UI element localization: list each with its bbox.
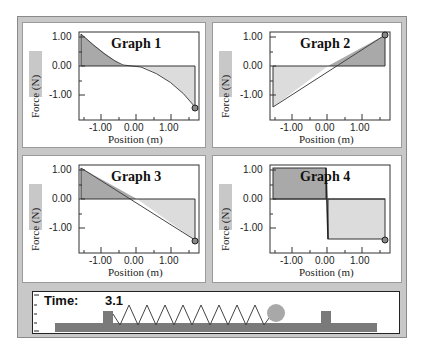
- svg-text:0.00: 0.00: [124, 255, 144, 266]
- svg-text:0.00: 0.00: [243, 193, 263, 204]
- svg-text:-1.00: -1.00: [49, 89, 72, 100]
- svg-text:1.00: 1.00: [350, 122, 370, 133]
- svg-text:1.00: 1.00: [52, 164, 72, 175]
- simulation-panel: Time: 3.1: [32, 291, 400, 334]
- svg-text:Position (m): Position (m): [299, 266, 354, 279]
- svg-text:0.00: 0.00: [124, 122, 144, 133]
- svg-text:-1.00: -1.00: [89, 122, 112, 133]
- svg-text:1.00: 1.00: [350, 255, 370, 266]
- svg-text:1.00: 1.00: [243, 164, 263, 175]
- graph-title: Graph 1: [111, 36, 161, 51]
- svg-text:-1.00: -1.00: [240, 222, 263, 233]
- svg-text:0.00: 0.00: [243, 60, 263, 71]
- svg-text:0.00: 0.00: [52, 193, 72, 204]
- graph-panel-1: Force (N) 1.00 0.00 -1.00 -1.00 0.00 1.0…: [22, 22, 206, 148]
- time-value: 3.1: [105, 293, 123, 308]
- graph-panel-2: Force (N) 1.00 0.00 -1.00 -1.00 0.00 1.0…: [212, 22, 402, 148]
- svg-text:1.00: 1.00: [159, 122, 179, 133]
- svg-text:0.00: 0.00: [52, 60, 72, 71]
- graph-3-chart: Force (N) 1.00 0.00 -1.00 -1.00 0.00 1.0…: [23, 156, 207, 284]
- spring-mass-animation: [33, 292, 399, 333]
- svg-text:Position (m): Position (m): [108, 266, 163, 279]
- svg-text:1.00: 1.00: [159, 255, 179, 266]
- svg-text:Force (N): Force (N): [219, 75, 232, 118]
- svg-text:Position (m): Position (m): [299, 133, 354, 146]
- graph-title: Graph 4: [300, 169, 350, 184]
- graph-panel-4: Force (N) 1.00 0.00 -1.00 -1.00 0.00 1.0…: [212, 155, 402, 283]
- graph-panel-3: Force (N) 1.00 0.00 -1.00 -1.00 0.00 1.0…: [22, 155, 206, 283]
- svg-text:Force (N): Force (N): [219, 208, 232, 251]
- graph-title: Graph 2: [300, 36, 350, 51]
- svg-text:0.00: 0.00: [315, 255, 335, 266]
- graph-4-chart: Force (N) 1.00 0.00 -1.00 -1.00 0.00 1.0…: [213, 156, 403, 284]
- graph-1-chart: Force (N) 1.00 0.00 -1.00 -1.00 0.00 1.0…: [23, 23, 207, 149]
- left-wall: [103, 311, 113, 325]
- svg-text:Force (N): Force (N): [29, 208, 42, 251]
- y-axis-title: Force (N): [29, 75, 42, 118]
- svg-text:-1.00: -1.00: [240, 89, 263, 100]
- svg-text:-1.00: -1.00: [49, 222, 72, 233]
- graph-title: Graph 3: [111, 169, 161, 184]
- svg-text:-1.00: -1.00: [89, 255, 112, 266]
- svg-text:-1.00: -1.00: [280, 255, 303, 266]
- graph-2-chart: Force (N) 1.00 0.00 -1.00 -1.00 0.00 1.0…: [213, 23, 403, 149]
- svg-text:0.00: 0.00: [315, 122, 335, 133]
- svg-text:-1.00: -1.00: [280, 122, 303, 133]
- x-axis-title: Position (m): [108, 133, 163, 146]
- svg-text:1.00: 1.00: [243, 31, 263, 42]
- time-label: Time:: [44, 293, 78, 308]
- mass-ball: [267, 304, 285, 322]
- svg-text:1.00: 1.00: [52, 31, 72, 42]
- right-stop: [321, 311, 331, 325]
